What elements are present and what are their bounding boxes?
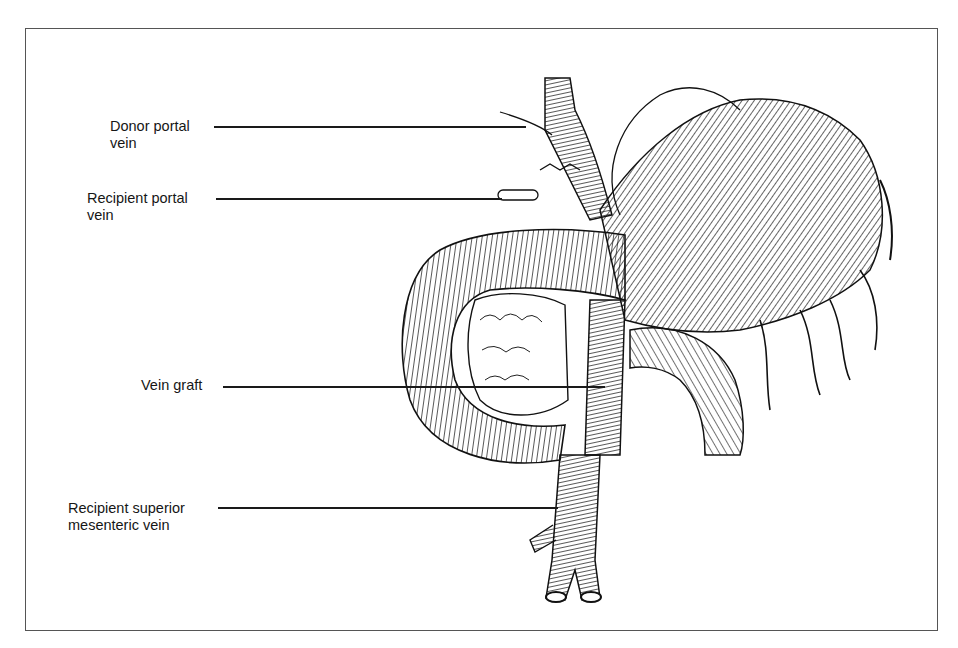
label-vein-graft: Vein graft xyxy=(141,377,202,394)
label-line: Recipient superior xyxy=(68,500,185,517)
anatomy-illustration xyxy=(0,0,958,648)
intestine-limb-shape xyxy=(630,328,743,455)
label-line: vein xyxy=(110,135,190,152)
label-line: mesenteric vein xyxy=(68,517,185,534)
label-recipient-portal-vein: Recipient portal vein xyxy=(87,190,188,224)
leader-line-vein-graft xyxy=(223,386,605,388)
vein-graft-shape xyxy=(585,300,625,455)
label-line: Vein graft xyxy=(141,377,202,394)
label-line: Donor portal xyxy=(110,118,190,135)
smv-shape xyxy=(530,455,601,602)
pancreas-shape xyxy=(468,294,568,415)
label-donor-portal-vein: Donor portal vein xyxy=(110,118,190,152)
leader-line-recipient-smv xyxy=(218,507,558,509)
label-recipient-smv: Recipient superior mesenteric vein xyxy=(68,500,185,534)
portal-vein-shape xyxy=(498,78,612,220)
leader-line-donor-portal-vein xyxy=(214,126,526,128)
label-line: vein xyxy=(87,207,188,224)
leader-line-recipient-portal-vein xyxy=(216,198,502,200)
label-line: Recipient portal xyxy=(87,190,188,207)
